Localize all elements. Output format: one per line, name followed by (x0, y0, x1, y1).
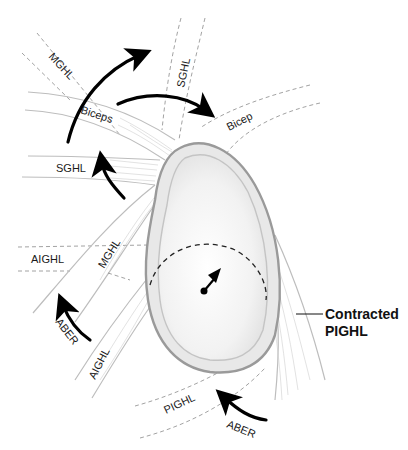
label-bicep: Bicep (224, 110, 254, 133)
biceps-band (25, 92, 175, 160)
glenoid (146, 143, 280, 372)
label-sghl-top: SGHL (174, 57, 192, 89)
shoulder-ligament-diagram: MGHL SGHL Biceps Bicep SGHL AIGHL MGHL A… (0, 0, 408, 450)
label-sghl-left: SGHL (56, 162, 86, 174)
label-biceps: Biceps (79, 103, 115, 125)
label-aber-left: ABER (53, 316, 81, 347)
label-aighl-left: AIGHL (31, 253, 64, 265)
label-contracted-pighl: PIGHL (325, 323, 368, 339)
label-contracted: Contracted (325, 306, 399, 322)
label-aber-bottom: ABER (225, 418, 257, 440)
label-aighl-lower: AIGHL (86, 346, 112, 381)
arrow-biceps-right-icon (118, 96, 205, 110)
label-pighl: PIGHL (162, 391, 197, 416)
diagram-canvas: MGHL SGHL Biceps Bicep SGHL AIGHL MGHL A… (0, 0, 408, 450)
sghl-left-band (22, 156, 160, 185)
arrow-aber-bottom-icon (225, 398, 266, 420)
label-mghl-top: MGHL (47, 50, 77, 81)
